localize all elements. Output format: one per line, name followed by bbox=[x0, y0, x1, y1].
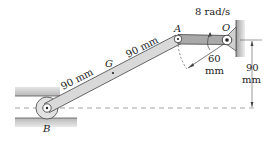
crank-ao bbox=[178, 35, 226, 45]
label-a: A bbox=[173, 23, 181, 34]
label-g: G bbox=[105, 58, 113, 69]
radius-unit: mm bbox=[205, 65, 224, 76]
height-value: 90 bbox=[246, 62, 259, 73]
crank-path-arc bbox=[178, 45, 187, 69]
point-g bbox=[112, 72, 114, 74]
angular-velocity-label: 8 rad/s bbox=[195, 6, 230, 17]
radius-value: 60 bbox=[208, 53, 221, 64]
mechanism-diagram: 8 rad/s O A G B 90 mm 90 mm 60 mm 90 mm bbox=[0, 0, 271, 141]
wall-support bbox=[236, 20, 245, 57]
label-o: O bbox=[222, 22, 230, 33]
label-b: B bbox=[42, 123, 50, 134]
upper-guide bbox=[15, 87, 60, 96]
height-unit: mm bbox=[242, 74, 261, 85]
